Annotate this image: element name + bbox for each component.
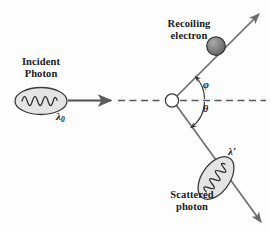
incident-photon-label-line2: Photon — [8, 68, 74, 80]
scattering-vertex — [165, 94, 178, 107]
scattered-photon-label-line2: photon — [154, 201, 230, 213]
incident-photon-label-line1: Incident — [8, 56, 74, 68]
incident-wavelength-label: λ0 — [56, 110, 65, 124]
scattered-photon-label: Scattered photon — [154, 189, 230, 213]
scattered-wavelength-label: λ′ — [228, 145, 236, 157]
angle-phi-label: φ — [203, 79, 209, 90]
lambda-subscript: 0 — [61, 115, 65, 124]
recoiling-electron-label: Recoiling electron — [152, 18, 226, 42]
recoiling-electron-label-line1: Recoiling — [152, 18, 226, 30]
angle-theta-label: θ — [203, 103, 208, 114]
recoiling-electron-label-line2: electron — [152, 30, 226, 42]
compton-scattering-figure: Incident Photon Recoiling electron Scatt… — [0, 0, 270, 232]
incident-photon-label: Incident Photon — [8, 56, 74, 80]
scattered-photon-label-line1: Scattered — [154, 189, 230, 201]
